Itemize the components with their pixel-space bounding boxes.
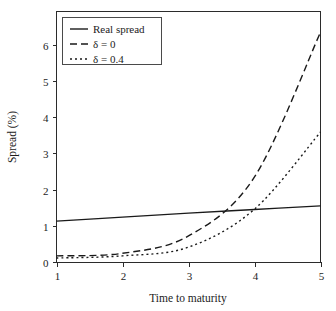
y-axis-ticks: 0123456 <box>43 40 57 269</box>
legend-label-3: δ = 0.4 <box>93 53 124 65</box>
x-tick-label: 4 <box>253 270 259 282</box>
y-tick-label: 4 <box>43 112 49 124</box>
x-axis-title: Time to maturity <box>149 292 227 305</box>
y-tick-label: 1 <box>43 221 49 233</box>
spread-vs-maturity-chart: 0123456 12345 Time to maturity Spread (%… <box>0 0 336 311</box>
y-axis-title: Spread (%) <box>6 111 19 163</box>
series-line-1 <box>57 206 321 221</box>
legend-label-1: Real spread <box>93 23 145 35</box>
y-tick-label: 0 <box>43 257 49 269</box>
y-tick-label: 6 <box>43 40 49 52</box>
chart-figure: 0123456 12345 Time to maturity Spread (%… <box>0 0 336 311</box>
legend-label-2: δ = 0 <box>93 38 116 50</box>
x-axis-ticks: 12345 <box>55 262 325 282</box>
y-tick-label: 2 <box>43 185 49 197</box>
x-tick-label: 2 <box>121 270 127 282</box>
series-line-3 <box>57 132 321 258</box>
x-tick-label: 3 <box>187 270 193 282</box>
y-tick-label: 5 <box>43 76 49 88</box>
chart-legend: Real spreadδ = 0δ = 0.4 <box>63 18 162 66</box>
y-tick-label: 3 <box>43 148 49 160</box>
data-series-group <box>57 32 321 258</box>
series-line-2 <box>57 32 321 256</box>
x-tick-label: 5 <box>319 270 325 282</box>
x-tick-label: 1 <box>55 270 61 282</box>
